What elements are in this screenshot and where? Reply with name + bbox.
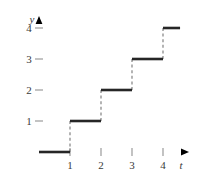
x-tick-label-2: 2 [94, 160, 108, 171]
y-tick-label-3: 3 [22, 54, 36, 65]
step-treads-group [39, 28, 180, 152]
axes-group [8, 16, 189, 180]
x-tick-label-1: 1 [63, 160, 77, 171]
x-axis-ticks [70, 148, 163, 156]
step-function-figure: 4 3 2 1 1 2 3 4 t y [0, 0, 204, 185]
y-axis-ticks [35, 28, 43, 121]
x-tick-label-4: 4 [156, 160, 170, 171]
x-tick-label-3: 3 [125, 160, 139, 171]
y-tick-label-2: 2 [22, 85, 36, 96]
y-tick-label-1: 1 [22, 116, 36, 127]
x-axis-arrow [181, 149, 189, 156]
x-axis-label: t [175, 160, 187, 171]
y-axis-label: y [26, 14, 38, 25]
